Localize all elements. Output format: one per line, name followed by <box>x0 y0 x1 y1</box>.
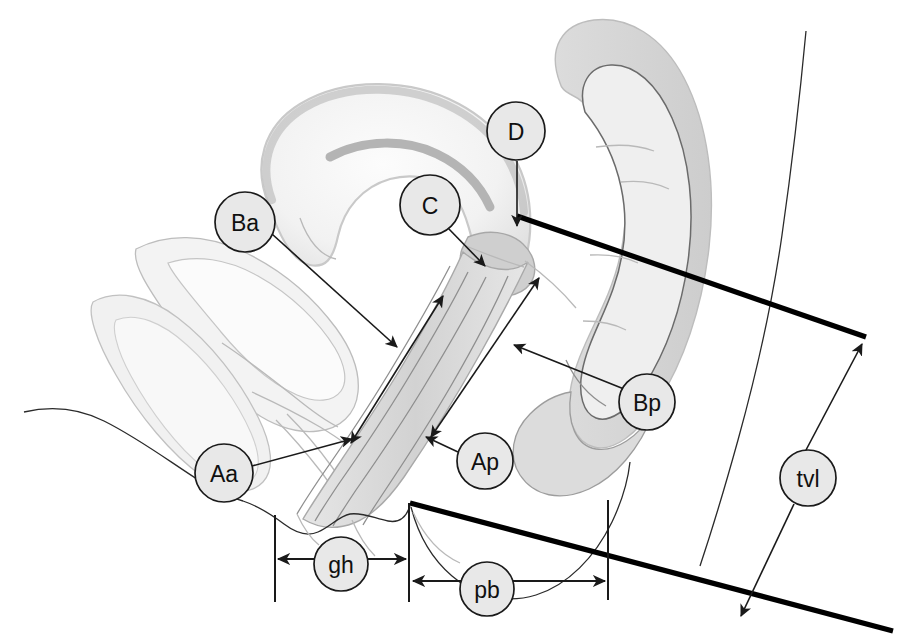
anatomy-diagram: Ba C D Bp Aa Ap <box>0 0 909 637</box>
label-Ba[interactable]: Ba <box>215 192 275 252</box>
label-Bp-text: Bp <box>633 390 661 416</box>
label-Bp[interactable]: Bp <box>619 374 675 430</box>
label-pb-text: pb <box>474 577 500 603</box>
label-Ap[interactable]: Ap <box>457 433 513 489</box>
label-tvl-text: tvl <box>797 466 820 492</box>
label-Aa[interactable]: Aa <box>195 444 253 502</box>
label-tvl[interactable]: tvl <box>780 450 836 506</box>
label-C-text: C <box>422 193 439 219</box>
label-gh[interactable]: gh <box>314 537 368 591</box>
label-C[interactable]: C <box>400 175 460 235</box>
label-Ba-text: Ba <box>231 210 259 236</box>
label-Aa-text: Aa <box>210 461 238 487</box>
perineal-body-fold <box>413 512 460 563</box>
label-Ap-text: Ap <box>471 449 499 475</box>
label-gh-text: gh <box>328 552 354 578</box>
label-D-text: D <box>508 119 525 145</box>
Ap-leader-line <box>426 437 458 452</box>
label-D[interactable]: D <box>487 102 545 160</box>
rectum-group <box>513 19 711 495</box>
tvl-leader-upper <box>806 344 862 450</box>
figure-canvas: Ba C D Bp Aa Ap <box>0 0 909 637</box>
label-pb[interactable]: pb <box>460 562 514 616</box>
